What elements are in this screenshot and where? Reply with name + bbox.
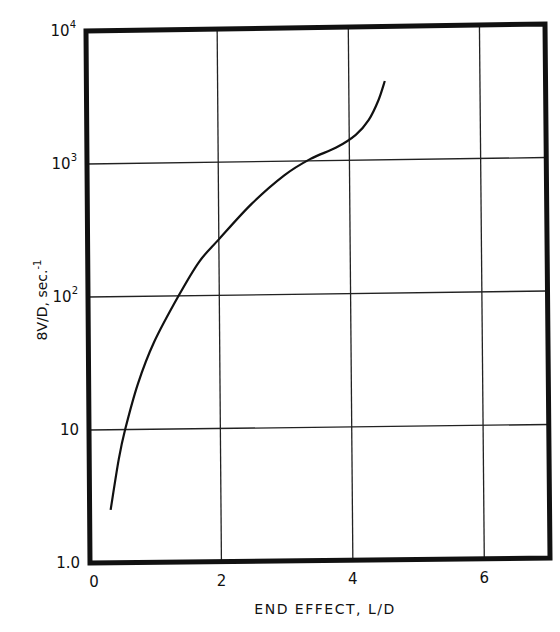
gridline [88,291,548,297]
x-tick-label: 2 [217,572,227,590]
x-axis-label: END EFFECT, L/D [254,601,395,617]
x-tick-label: 6 [480,569,490,587]
y-tick-label: 103 [52,152,77,173]
y-tick-label: 104 [51,19,76,40]
y-axis-label: 8V/D, sec.-1 [32,260,50,341]
x-tick-label: 4 [348,570,358,588]
x-axis-ticks: 0246 [89,569,489,591]
y-tick-label: 1.0 [56,554,80,572]
gridlines [87,25,549,562]
svg-text:8V/D, sec.-1: 8V/D, sec.-1 [32,260,50,341]
gridline [87,158,546,165]
y-axis-ticks: 1.010102103104 [51,19,80,572]
gridline [89,425,549,431]
x-tick-label: 0 [89,573,99,591]
chart: 1.010102103104 0246 END EFFECT, L/D 8V/D… [0,0,560,632]
y-tick-label: 102 [53,285,78,306]
y-tick-label: 10 [60,421,79,439]
